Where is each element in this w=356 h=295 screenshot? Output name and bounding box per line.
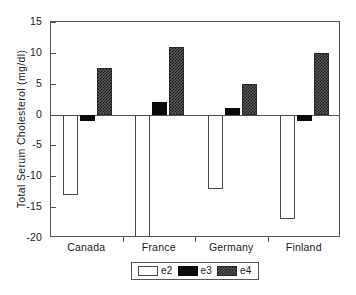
x-axis-label-finland: Finland: [268, 241, 341, 253]
legend-swatch-e4-icon: [217, 266, 237, 276]
bar-france-e2: [135, 115, 150, 237]
y-tick-mark: [51, 176, 56, 177]
plot-area: [50, 21, 340, 237]
x-axis-label-canada: Canada: [50, 241, 123, 253]
legend-entry-e2: e2: [138, 266, 173, 276]
bar-canada-e4: [97, 68, 112, 114]
legend-swatch-e3-icon: [178, 266, 198, 276]
bar-finland-e2: [280, 115, 295, 220]
y-tick-label: -20: [0, 232, 42, 242]
bar-france-e4: [169, 47, 184, 115]
chart-container: Total Serum Cholesterol (mg/dl) 151050-5…: [0, 0, 356, 295]
legend-label-e3: e3: [201, 266, 213, 276]
legend: e2e3e4: [131, 262, 259, 280]
y-tick-mark: [51, 207, 56, 208]
y-tick-mark: [51, 84, 56, 85]
y-tick-label: -10: [0, 170, 42, 180]
bar-canada-e3: [80, 115, 95, 121]
legend-label-e4: e4: [240, 266, 252, 276]
y-tick-label: 15: [0, 16, 42, 26]
legend-entry-e3: e3: [178, 266, 213, 276]
bar-canada-e2: [63, 115, 78, 195]
legend-entry-e4: e4: [217, 266, 252, 276]
x-axis-label-france: France: [123, 241, 196, 253]
y-tick-mark: [51, 22, 56, 23]
x-axis-label-germany: Germany: [195, 241, 268, 253]
bar-germany-e4: [242, 84, 257, 115]
y-tick-label: 0: [0, 109, 42, 119]
y-tick-mark: [51, 145, 56, 146]
y-tick-mark: [51, 53, 56, 54]
bar-finland-e3: [297, 115, 312, 121]
bar-finland-e4: [314, 53, 329, 115]
y-tick-label: 10: [0, 47, 42, 57]
bar-germany-e3: [225, 108, 240, 114]
bar-france-e3: [152, 102, 167, 114]
y-tick-label: -5: [0, 139, 42, 149]
bar-germany-e2: [208, 115, 223, 189]
legend-label-e2: e2: [161, 266, 173, 276]
y-tick-label: -15: [0, 201, 42, 211]
y-tick-label: 5: [0, 78, 42, 88]
legend-swatch-e2-icon: [138, 266, 158, 276]
y-tick-mark: [51, 115, 56, 116]
